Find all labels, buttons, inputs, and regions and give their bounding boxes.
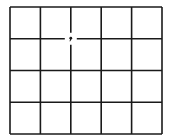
- grid-diagram: [0, 0, 171, 138]
